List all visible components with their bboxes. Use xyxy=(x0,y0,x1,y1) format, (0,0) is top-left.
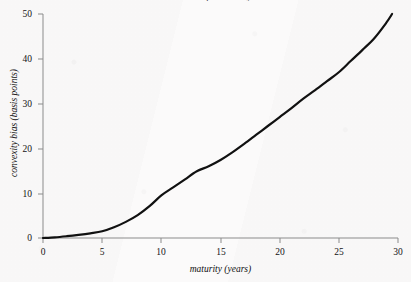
convexity-bias-chart-figure: term structure of convexity bias 50 40 3… xyxy=(0,0,411,282)
x-tick-label-25: 25 xyxy=(329,247,349,257)
x-tick-marks xyxy=(43,238,398,243)
x-tick-label-15: 15 xyxy=(211,247,231,257)
y-tick-marks xyxy=(38,14,43,238)
plot-area-svg xyxy=(0,0,411,282)
x-tick-label-5: 5 xyxy=(92,247,112,257)
y-axis-title: convexity bias (basis points) xyxy=(9,43,19,203)
axes-group xyxy=(43,14,398,238)
convexity-bias-curve xyxy=(43,14,392,238)
x-tick-label-0: 0 xyxy=(33,247,53,257)
x-tick-label-10: 10 xyxy=(151,247,171,257)
x-axis-title: maturity (years) xyxy=(43,264,398,274)
x-tick-label-30: 30 xyxy=(388,247,408,257)
y-tick-label-0: 0 xyxy=(10,233,32,243)
x-tick-label-20: 20 xyxy=(270,247,290,257)
y-tick-label-50: 50 xyxy=(10,9,32,19)
